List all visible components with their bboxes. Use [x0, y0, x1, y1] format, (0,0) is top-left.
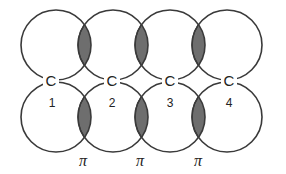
carbon-2-number: 2	[109, 96, 116, 110]
carbon-1-symbol: C	[46, 72, 57, 89]
pi-bond-labels: π π π	[79, 152, 203, 169]
pi-bond-label-3-4: π	[194, 152, 203, 169]
carbon-1-number: 1	[49, 96, 56, 110]
carbon-2-symbol: C	[107, 72, 118, 89]
carbon-4-number: 4	[226, 96, 233, 110]
carbon-3-number: 3	[167, 96, 174, 110]
pi-bond-label-1-2: π	[79, 152, 88, 169]
carbon-3-symbol: C	[165, 72, 176, 89]
p-orbital-overlap-diagram: C C C C 1 2 3 4 π π π	[0, 0, 286, 174]
pi-bond-label-2-3: π	[136, 152, 145, 169]
carbon-4-symbol: C	[224, 72, 235, 89]
